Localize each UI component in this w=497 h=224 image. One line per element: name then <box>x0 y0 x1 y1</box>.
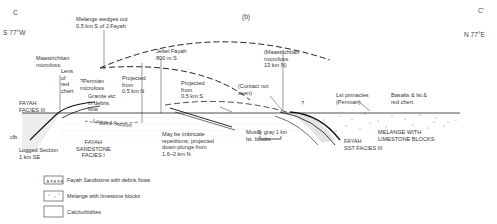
bearing-right: N 77°E <box>464 32 485 39</box>
note-granite: Granite etc in debris flow <box>88 93 115 113</box>
label-clb: clb <box>10 134 17 141</box>
label-fayah-sst-iii: FAYAH SST FACIES III <box>344 138 382 151</box>
label-melange-blocks: MELANGE WITH LIMESTONE BLOCKS <box>378 129 434 142</box>
label-logged-section-se: Logged Section 1 km SE <box>19 147 58 160</box>
note-melange-wedges: Melange wedges out 0.5 km S of J.Fayah <box>76 16 128 29</box>
panel-label: (b) <box>242 14 250 21</box>
scale-start: 0 <box>258 129 261 136</box>
note-contact: (Contact not seen) <box>238 83 268 96</box>
label-fayah-sandstone-i: FAYAH SANDSTONE FACIES I <box>76 139 111 159</box>
legend-item-calciturbidites: Calciturbidites <box>67 209 101 216</box>
note-projected-n: Projected from 0.5 km N <box>122 75 146 95</box>
note-basalts: Basalts & lst & red chert <box>391 92 427 105</box>
scale-end: 1 km <box>276 129 287 136</box>
legend-item-melange: Melange with limestone blocks <box>67 193 140 200</box>
label-imbricate: May be imbricate repetitions; projected … <box>162 131 214 157</box>
note-projected-s: Projected from 0.5 km S <box>181 80 205 100</box>
note-lst-pinnacles: Lst pinnacles (Permian) <box>336 92 369 105</box>
end-label-right: C' <box>478 8 484 15</box>
note-permian: ?Permian microfoss <box>80 78 104 91</box>
note-maastrichtian-right: (Maastrichtian microfoss. 13 km N) <box>264 49 299 69</box>
bearing-left: S 77°W <box>3 30 25 37</box>
note-maastrichtian-left: Maastrichtian microfoss. <box>36 55 69 68</box>
label-qq: ? <box>301 100 304 107</box>
cross-section-drawing: ∧×∧×∧ <box>0 0 497 224</box>
end-label-left: C <box>13 10 18 17</box>
note-lens-chert: Lens of red chert <box>61 68 73 94</box>
label-fayah-facies-iii: FAYAH FACIES III <box>19 100 45 113</box>
legend-item-fayah-sandstone: Fayah Sandstone with debris flows <box>67 177 150 184</box>
svg-text:∧×∧×∧: ∧×∧×∧ <box>46 178 64 184</box>
note-jebel-fayah: Jebel Fayah 800 m S <box>156 48 186 61</box>
